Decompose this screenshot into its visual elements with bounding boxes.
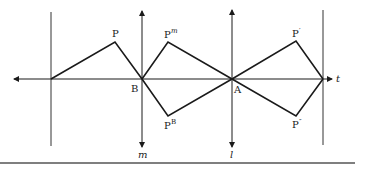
path-PB (142, 79, 232, 116)
label-B: B (131, 83, 138, 94)
label-Pprime: P (292, 28, 299, 39)
label-l: l (230, 149, 233, 160)
label-Pprime-sup: ′ (299, 27, 301, 35)
label-PB-sup: B (171, 118, 176, 126)
label-A: A (233, 84, 242, 95)
label-m: m (138, 149, 147, 160)
path-Pdprime (232, 79, 323, 116)
label-Pm: P (164, 29, 171, 40)
label-t: t (336, 73, 341, 84)
reflection-diagram: P P m P B P ′ P ″ B A t m l (0, 0, 380, 169)
label-Pdprime-sup: ″ (299, 118, 302, 126)
label-P: P (112, 28, 119, 39)
label-Pdprime: P (292, 119, 299, 130)
label-PB: P (164, 120, 171, 131)
path-P (51, 42, 142, 79)
label-Pm-sup: m (171, 27, 178, 35)
path-Pm (142, 42, 232, 79)
path-Pprime (232, 41, 323, 79)
